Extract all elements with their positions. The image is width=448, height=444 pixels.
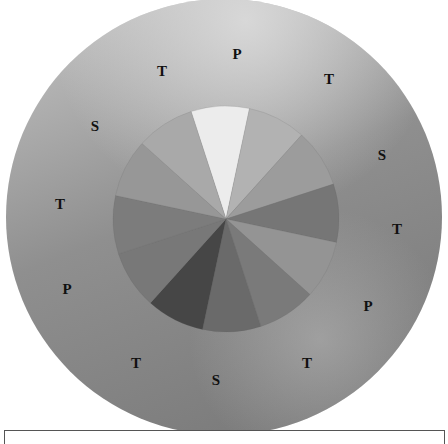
ring-label-8: T — [131, 355, 141, 371]
ring-label-5: P — [363, 298, 372, 314]
inner-color-wheel — [113, 106, 339, 332]
ring-label-12: T — [157, 63, 167, 79]
ring-label-10: T — [55, 196, 65, 212]
caption-box — [4, 430, 445, 444]
ring-label-9: P — [62, 281, 71, 297]
ring-label-11: S — [91, 118, 99, 134]
ring-label-7: S — [212, 372, 220, 388]
ring-label-6: T — [302, 355, 312, 371]
ring-label-3: S — [378, 147, 386, 163]
ring-label-1: P — [232, 46, 241, 62]
ring-label-4: T — [392, 221, 402, 237]
ring-label-2: T — [324, 71, 334, 87]
